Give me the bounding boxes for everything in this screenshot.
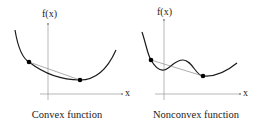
nonconvex-chord bbox=[151, 60, 203, 76]
nonconvex-caption: Nonconvex function bbox=[153, 109, 239, 120]
convex-chord bbox=[29, 62, 80, 80]
nonconvex-x-axis-arrow-icon bbox=[239, 93, 241, 95]
nonconvex-y-axis-arrow-icon bbox=[163, 19, 165, 21]
nonconvex-point-left bbox=[149, 58, 154, 63]
nonconvex-curve bbox=[142, 32, 237, 76]
nonconvex-point-right bbox=[201, 74, 206, 79]
convex-caption: Convex function bbox=[32, 109, 102, 120]
convex-x-axis-arrow-icon bbox=[121, 93, 123, 95]
convex-y-axis-label: f(x) bbox=[42, 8, 57, 19]
nonconvex-y-axis-label: f(x) bbox=[157, 6, 172, 17]
convex-curve bbox=[15, 30, 116, 80]
nonconvex-panel bbox=[142, 19, 241, 100]
convex-panel bbox=[15, 23, 123, 100]
convex-point-right bbox=[78, 78, 83, 83]
convex-x-axis-label: x bbox=[125, 87, 130, 98]
nonconvex-x-axis-label: x bbox=[243, 87, 248, 98]
convex-point-left bbox=[27, 60, 32, 65]
diagram-canvas bbox=[0, 0, 262, 125]
convex-y-axis-arrow-icon bbox=[47, 23, 49, 25]
